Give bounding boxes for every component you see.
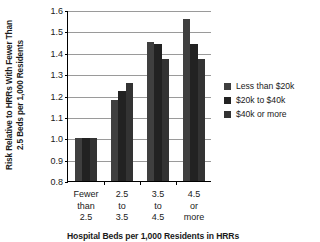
bar-group xyxy=(111,11,134,181)
y-axis-tick-mark xyxy=(65,161,68,162)
legend-item[interactable]: $40k or more xyxy=(224,107,318,121)
y-axis-tick-mark xyxy=(65,32,68,33)
legend-label: $20k to $40k xyxy=(236,96,285,105)
x-axis-tick-mark xyxy=(176,181,177,185)
bar xyxy=(183,19,191,181)
bar xyxy=(147,42,155,181)
bar xyxy=(90,138,98,181)
y-axis-tick-label: 1.6 xyxy=(33,7,63,16)
legend-label: Less than $20k xyxy=(236,82,294,91)
x-axis-category-label: 4.5ormore xyxy=(184,189,205,224)
y-axis-title: Risk Relative to HRRs With Fewer Than 2.… xyxy=(0,0,30,190)
y-axis-tick-label: 1.2 xyxy=(33,92,63,101)
legend-swatch-icon xyxy=(224,97,231,104)
y-axis-tick-label: 1.4 xyxy=(33,49,63,58)
legend: Less than $20k$20k to $40k$40k or more xyxy=(224,79,318,121)
y-axis-tick-label: 1.1 xyxy=(33,113,63,122)
plot-area: 0.80.91.01.11.21.31.41.51.6Fewerthan2.52… xyxy=(67,11,211,182)
bar xyxy=(162,59,170,181)
y-axis-tick-mark xyxy=(65,97,68,98)
x-axis-tick-mark xyxy=(104,181,105,185)
x-axis-category-label: 3.5to4.5 xyxy=(152,189,165,224)
y-axis-tick-mark xyxy=(65,182,68,183)
y-axis-tick-mark xyxy=(65,75,68,76)
y-axis-tick-label: 1.3 xyxy=(33,71,63,80)
bar-group xyxy=(183,11,206,181)
x-axis-tick-mark xyxy=(140,181,141,185)
y-axis-tick-mark xyxy=(65,118,68,119)
legend-label: $40k or more xyxy=(236,110,287,119)
legend-item[interactable]: Less than $20k xyxy=(224,79,318,93)
bar xyxy=(75,138,83,181)
y-axis-title-line-1: Risk Relative to HRRs With Fewer Than xyxy=(4,20,15,170)
bar xyxy=(118,91,126,181)
legend-item[interactable]: $20k to $40k xyxy=(224,93,318,107)
bar xyxy=(82,138,90,181)
bar xyxy=(111,100,119,181)
y-axis-tick-label: 1.5 xyxy=(33,28,63,37)
legend-swatch-icon xyxy=(224,111,231,118)
y-axis-tick-label: 0.9 xyxy=(33,156,63,165)
x-axis-title: Hospital Beds per 1,000 Residents in HRR… xyxy=(67,231,210,241)
bar xyxy=(198,59,206,181)
y-axis-tick-label: 0.8 xyxy=(33,178,63,187)
legend-swatch-icon xyxy=(224,83,231,90)
y-axis-tick-mark xyxy=(65,54,68,55)
y-axis-tick-mark xyxy=(65,139,68,140)
bar-group xyxy=(147,11,170,181)
y-axis-tick-mark xyxy=(65,11,68,12)
bar-group xyxy=(75,11,98,181)
bar xyxy=(126,83,134,181)
bar-chart: Risk Relative to HRRs With Fewer Than 2.… xyxy=(0,0,320,242)
y-axis-tick-label: 1.0 xyxy=(33,135,63,144)
bar xyxy=(154,44,162,181)
x-axis-category-label: Fewerthan2.5 xyxy=(73,189,98,224)
x-axis-category-label: 2.5to3.5 xyxy=(116,189,129,224)
y-axis-title-line-2: 2.5 Beds per 1,000 Residents xyxy=(15,20,26,170)
bar xyxy=(190,44,198,181)
